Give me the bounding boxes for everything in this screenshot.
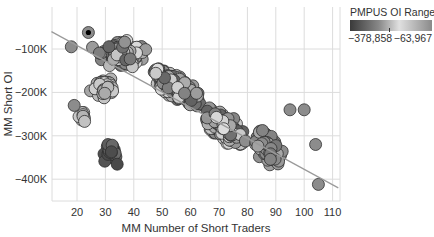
legend-marker xyxy=(389,28,390,32)
svg-text:−200K: −200K xyxy=(15,86,48,98)
svg-text:−300K: −300K xyxy=(15,130,48,142)
svg-text:−100K: −100K xyxy=(15,43,48,55)
x-axis-ticks: 2030405060708090100110 xyxy=(71,206,341,218)
y-axis-title: MM Short OI xyxy=(2,71,14,136)
svg-text:70: 70 xyxy=(213,206,225,218)
legend-gradient xyxy=(350,20,432,31)
svg-text:90: 90 xyxy=(270,206,282,218)
svg-text:110: 110 xyxy=(324,206,342,218)
y-axis-ticks: −100K−200K−300K−400K xyxy=(15,43,48,185)
svg-text:−400K: −400K xyxy=(15,173,48,185)
svg-text:80: 80 xyxy=(241,206,253,218)
svg-text:40: 40 xyxy=(128,206,140,218)
data-points xyxy=(65,27,324,191)
svg-text:30: 30 xyxy=(99,206,111,218)
svg-text:100: 100 xyxy=(295,206,313,218)
x-axis-title: MM Number of Short Traders xyxy=(122,222,271,234)
svg-text:50: 50 xyxy=(156,206,168,218)
svg-text:20: 20 xyxy=(71,206,83,218)
legend-title: PMPUS OI Range xyxy=(350,6,434,18)
svg-text:60: 60 xyxy=(184,206,196,218)
legend-min-label: −378,858 xyxy=(348,32,392,44)
legend-max-label: −63,967 xyxy=(394,32,432,44)
color-legend: PMPUS OI Range −378,858 −63,967 xyxy=(350,6,434,44)
